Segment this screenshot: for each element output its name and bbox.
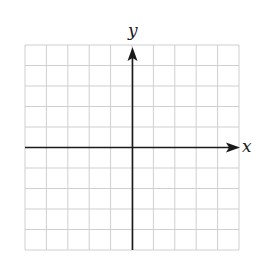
x-axis-label: x — [242, 138, 252, 155]
y-axis-label: y — [128, 22, 138, 39]
axes — [25, 47, 240, 250]
